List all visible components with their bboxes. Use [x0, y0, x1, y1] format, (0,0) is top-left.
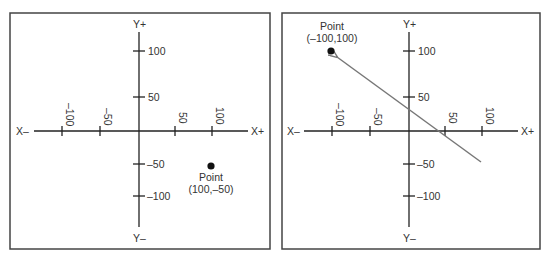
x-neg-label: X– [287, 125, 300, 137]
point-title: Point [320, 20, 344, 32]
point-marker [327, 47, 334, 54]
y-tick-label: 50 [148, 91, 160, 103]
y-tick-label: –100 [417, 190, 441, 202]
y-pos-label: Y+ [133, 18, 146, 30]
x-tick-label: 50 [177, 112, 189, 124]
x-tick-label: –100 [64, 103, 76, 127]
y-neg-label: Y– [133, 232, 146, 244]
point-title: Point [199, 171, 223, 183]
point-marker [207, 162, 214, 169]
x-pos-label: X+ [521, 125, 534, 137]
point-coords: (100,–50) [189, 183, 234, 195]
x-tick-label: –50 [102, 108, 114, 126]
y-tick-label: –50 [417, 158, 435, 170]
coordinate-diagram: X– X+ Y+ Y– –100 –50 50 100 100 50 –50 –… [0, 0, 550, 261]
y-tick-label: 100 [418, 45, 436, 57]
x-tick-label: 100 [484, 107, 496, 125]
y-pos-label: Y+ [403, 18, 416, 30]
y-tick-label: –100 [147, 190, 171, 202]
y-tick-label: 100 [148, 45, 166, 57]
x-tick-label: 100 [214, 107, 226, 125]
x-tick-label: –50 [372, 108, 384, 126]
y-neg-label: Y– [403, 232, 416, 244]
right-panel: X– X+ Y+ Y– –100 –50 50 100 100 50 –50 –… [282, 13, 540, 249]
x-neg-label: X– [16, 125, 29, 137]
point-coords: (–100,100) [307, 32, 358, 44]
x-tick-label: –100 [334, 103, 346, 127]
y-tick-label: 50 [418, 91, 430, 103]
x-tick-label: 50 [447, 112, 459, 124]
x-pos-label: X+ [251, 125, 264, 137]
y-tick-label: –50 [147, 158, 165, 170]
left-panel: X– X+ Y+ Y– –100 –50 50 100 100 50 –50 –… [10, 13, 270, 249]
